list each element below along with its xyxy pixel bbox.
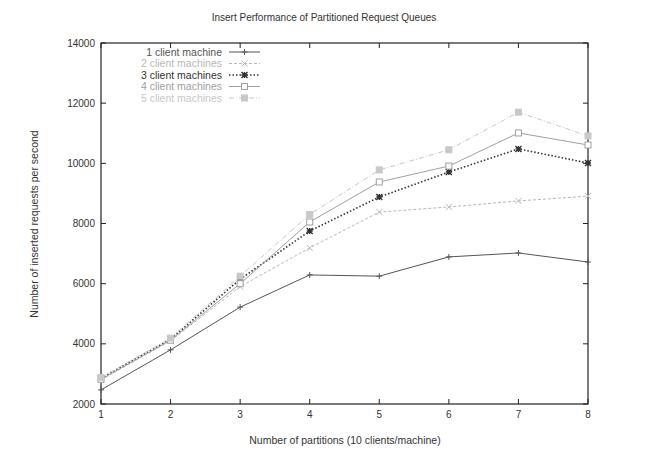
x-tick-label: 7 [516, 409, 522, 420]
plus-marker-icon [98, 387, 104, 393]
legend-label: 3 client machines [141, 69, 222, 81]
filled-square-marker-icon [585, 133, 591, 139]
square-marker-icon [585, 142, 591, 148]
series-line [98, 250, 591, 393]
y-tick-label: 12000 [67, 98, 95, 109]
filled-square-marker-icon [168, 335, 174, 341]
plus-marker-icon [446, 254, 452, 260]
y-tick-label: 4000 [73, 338, 96, 349]
y-tick-label: 6000 [73, 278, 96, 289]
y-tick-label: 2000 [73, 399, 96, 410]
series-line [98, 146, 591, 381]
filled-square-marker-icon [237, 273, 243, 279]
legend-label: 2 client machines [141, 57, 222, 69]
x-marker-icon [307, 245, 313, 251]
plus-marker-icon [237, 304, 243, 310]
x-tick-label: 3 [237, 409, 243, 420]
square-marker-icon [515, 130, 521, 136]
x-tick-label: 6 [446, 409, 452, 420]
y-tick-label: 10000 [67, 158, 95, 169]
filled-square-marker-icon [242, 95, 248, 101]
series-path [101, 253, 588, 390]
plus-marker-icon [376, 273, 382, 279]
plus-marker-icon [168, 347, 174, 353]
legend-label: 5 client machines [141, 92, 222, 104]
square-marker-icon [242, 84, 248, 90]
filled-square-marker-icon [307, 211, 313, 217]
y-tick-label: 14000 [67, 38, 95, 49]
star-marker-icon [307, 228, 313, 234]
square-marker-icon [376, 179, 382, 185]
filled-square-marker-icon [515, 109, 521, 115]
y-tick-label: 8000 [73, 218, 96, 229]
series-line [98, 130, 591, 382]
plus-marker-icon [307, 272, 313, 278]
star-marker-icon [585, 160, 591, 166]
legend-label: 4 client machines [141, 80, 222, 92]
filled-square-marker-icon [446, 147, 452, 153]
series-line [98, 193, 591, 383]
star-marker-icon [242, 72, 248, 78]
square-marker-icon [237, 281, 243, 287]
x-tick-label: 4 [307, 409, 313, 420]
line-chart: 200040006000800010000120001400012345678 … [0, 0, 648, 463]
plus-marker-icon [242, 49, 248, 55]
plus-marker-icon [585, 259, 591, 265]
filled-square-marker-icon [98, 375, 104, 381]
x-tick-label: 8 [585, 409, 591, 420]
x-tick-label: 1 [98, 409, 104, 420]
x-tick-label: 5 [377, 409, 383, 420]
filled-square-marker-icon [376, 167, 382, 173]
legend-label: 1 client machine [146, 46, 222, 58]
series-path [101, 196, 588, 380]
star-marker-icon [446, 169, 452, 175]
plus-marker-icon [515, 250, 521, 256]
star-marker-icon [376, 194, 382, 200]
star-marker-icon [515, 146, 521, 152]
x-tick-label: 2 [168, 409, 174, 420]
series-lines [98, 109, 591, 393]
square-marker-icon [446, 163, 452, 169]
square-marker-icon [307, 219, 313, 225]
legend: 1 client machine2 client machines3 clien… [141, 46, 260, 104]
series-path [101, 149, 588, 378]
